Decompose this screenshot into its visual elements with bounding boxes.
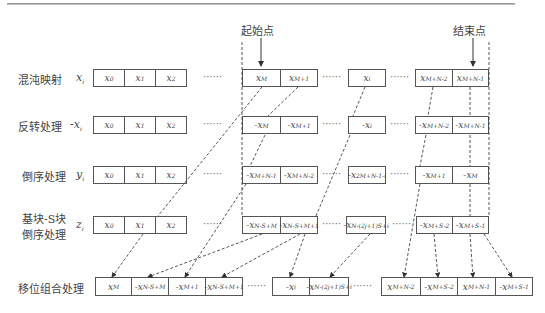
connector-lines bbox=[0, 0, 545, 313]
